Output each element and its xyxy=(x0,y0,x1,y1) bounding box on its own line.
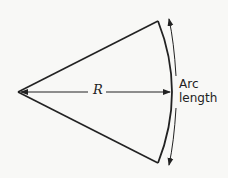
arc-label-line2: length xyxy=(179,91,217,105)
sector-diagram: R Arc length xyxy=(0,0,228,178)
arc-length-label: Arc length xyxy=(179,77,217,105)
radius-label: R xyxy=(90,83,106,97)
arc-label-line1: Arc xyxy=(179,77,217,91)
